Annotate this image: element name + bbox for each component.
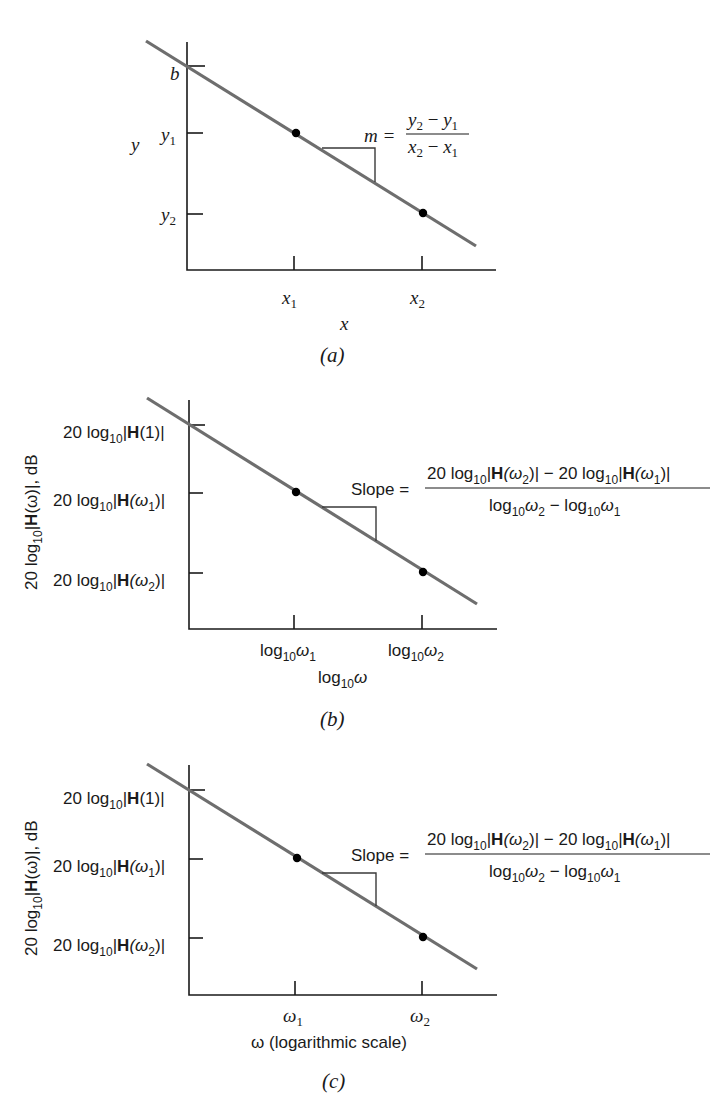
y-axis-label-a: y <box>129 134 140 155</box>
point-w2-c <box>419 933 427 941</box>
label-x2: x2 <box>409 287 425 311</box>
label-x1: x1 <box>281 287 297 311</box>
slope-label-c: Slope = <box>351 846 409 865</box>
point-x1-y1 <box>292 129 300 137</box>
figure-canvas: b y1 y2 y x1 x2 x m = y2 − y1 x2 − x1 (a… <box>0 0 727 1102</box>
slope-denominator-c: log10ω2 − log10ω1 <box>489 862 621 885</box>
x-axis-label-c: ω (logarithmic scale) <box>251 1033 407 1052</box>
ytick-hw1-b: 20 log10|H(ω1)| <box>53 491 165 514</box>
panel-b: 20 log10|H(1)| 20 log10|H(ω1)| 20 log10|… <box>22 398 710 731</box>
y-axis-label-b: 20 log10|H(ω)|, dB <box>22 454 45 590</box>
slope-denominator-a: x2 − x1 <box>407 136 458 160</box>
slope-m-label: m = <box>364 125 395 146</box>
ytick-hw2-c: 20 log10|H(ω2)| <box>53 936 165 959</box>
slope-label-b: Slope = <box>351 480 409 499</box>
slope-numerator-c: 20 log10|H(ω2)| − 20 log10|H(ω1)| <box>427 830 671 853</box>
axes-b <box>189 400 497 629</box>
y-axis-label-c: 20 log10|H(ω)|, dB <box>22 820 45 956</box>
xtick-w1: ω1 <box>283 1005 303 1029</box>
point-w1-c <box>293 854 301 862</box>
panel-c: 20 log10|H(1)| 20 log10|H(ω1)| 20 log10|… <box>22 764 710 1093</box>
point-w1-b <box>292 488 300 496</box>
ytick-h1-b: 20 log10|H(1)| <box>63 423 165 446</box>
slope-numerator-b: 20 log10|H(ω2)| − 20 log10|H(ω1)| <box>427 464 671 487</box>
label-y1: y1 <box>159 124 176 148</box>
label-y2: y2 <box>159 204 176 228</box>
ytick-hw1-c: 20 log10|H(ω1)| <box>53 857 165 880</box>
xtick-logw2: log10ω2 <box>388 641 444 664</box>
xtick-w2: ω2 <box>410 1005 430 1029</box>
label-b: b <box>170 63 180 84</box>
caption-c: (c) <box>322 1069 345 1093</box>
slope-denominator-b: log10ω2 − log10ω1 <box>489 496 621 519</box>
slope-numerator-a: y2 − y1 <box>406 109 458 133</box>
x-axis-label-a: x <box>339 313 349 334</box>
ytick-h1-c: 20 log10|H(1)| <box>63 789 165 812</box>
point-w2-b <box>419 568 427 576</box>
caption-b: (b) <box>320 707 345 731</box>
caption-a: (a) <box>320 343 345 367</box>
x-axis-label-b: log10ω <box>318 668 367 691</box>
ytick-hw2-b: 20 log10|H(ω2)| <box>53 571 165 594</box>
xtick-logw1: log10ω1 <box>260 641 316 664</box>
panel-a: b y1 y2 y x1 x2 x m = y2 − y1 x2 − x1 (a… <box>129 41 496 367</box>
point-x2-y2 <box>419 209 427 217</box>
axes-c <box>189 765 497 995</box>
